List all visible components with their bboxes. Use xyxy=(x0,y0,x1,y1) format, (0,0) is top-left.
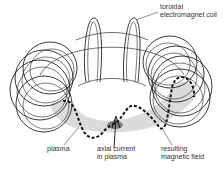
axial-current-label-line-1: axial current xyxy=(97,145,135,153)
coil-label-line-2: electromagnet coil xyxy=(160,11,217,19)
axial-current-label-line-2: in plasma xyxy=(97,153,135,161)
coil-leader xyxy=(136,12,158,20)
back-coils xyxy=(84,18,140,82)
field-leader xyxy=(163,130,172,145)
plasma-leader xyxy=(64,128,78,145)
magnetic-field-label-line-2: magnetic field xyxy=(161,153,204,161)
axial-current-label: axial current in plasma xyxy=(97,145,135,161)
magnetic-field-label-line-1: resulting xyxy=(161,145,204,153)
magnetic-field-label: resulting magnetic field xyxy=(161,145,204,161)
coil-label-line-1: toroidal xyxy=(160,3,217,11)
plasma-label: plasma xyxy=(47,145,70,153)
torus-body xyxy=(40,33,184,87)
plasma-label-line-1: plasma xyxy=(47,145,70,153)
tokamak-diagram xyxy=(0,0,224,169)
coil-label: toroidal electromagnet coil xyxy=(160,3,217,19)
